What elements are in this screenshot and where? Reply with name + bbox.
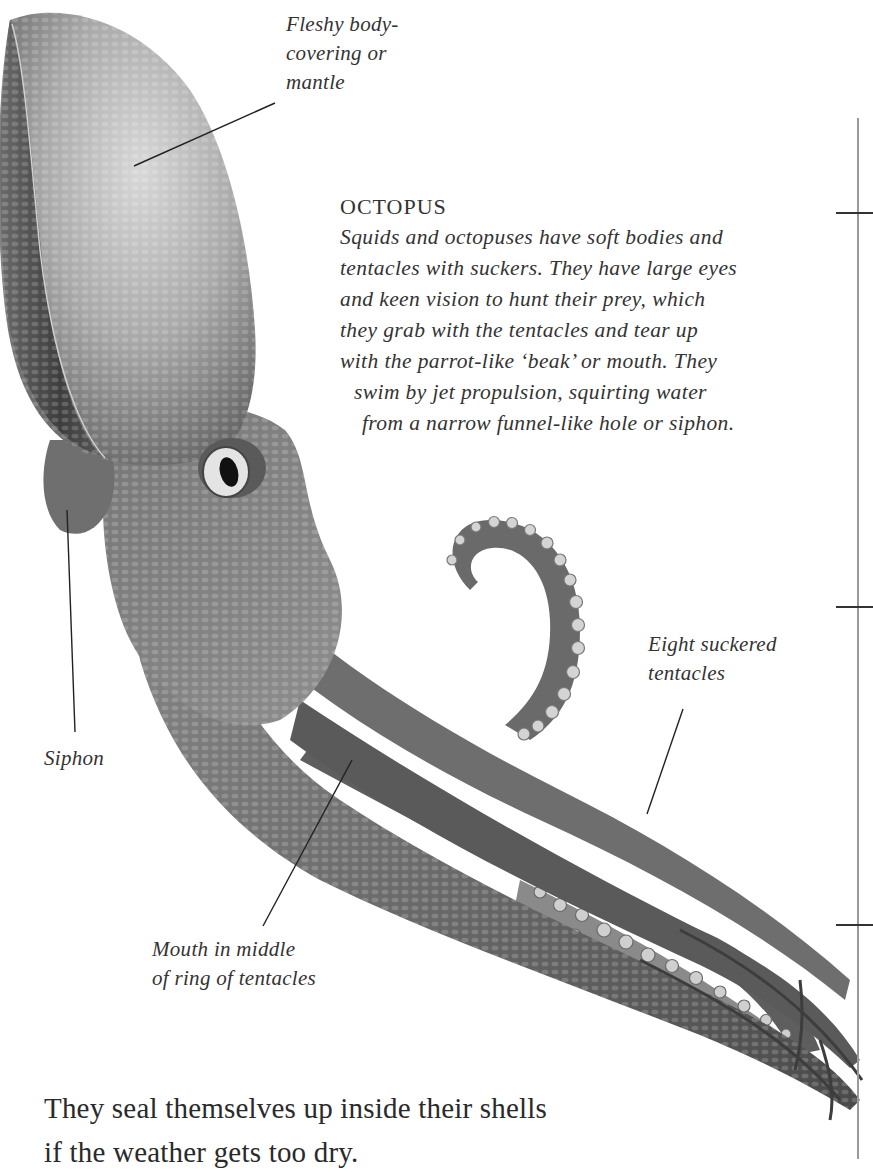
- label-mantle: Fleshy body- covering or mantle: [286, 10, 399, 97]
- body-line: They seal themselves up inside their she…: [44, 1086, 547, 1130]
- label-line: Eight suckered: [648, 630, 777, 659]
- label-line: covering or: [286, 39, 399, 68]
- label-eight-tentacles: Eight suckered tentacles: [648, 630, 777, 688]
- body-text: They seal themselves up inside their she…: [44, 1086, 547, 1172]
- caption-body: Squids and octopuses have soft bodies an…: [340, 222, 850, 439]
- caption-line: they grab with the tentacles and tear up: [340, 315, 850, 346]
- label-line: of ring of tentacles: [152, 964, 316, 993]
- label-line: mantle: [286, 68, 399, 97]
- label-line: Fleshy body-: [286, 10, 399, 39]
- caption-line: swim by jet propulsion, squirting water: [340, 377, 850, 408]
- caption-line: with the parrot-like ‘beak’ or mouth. Th…: [340, 346, 850, 377]
- margin-rule: [857, 118, 859, 1159]
- label-mouth: Mouth in middle of ring of tentacles: [152, 935, 316, 993]
- eye-icon: [198, 438, 266, 498]
- label-siphon: Siphon: [44, 744, 104, 773]
- caption-title: OCTOPUS: [340, 192, 850, 222]
- body-line: if the weather gets too dry.: [44, 1130, 547, 1172]
- caption-line: and keen vision to hunt their prey, whic…: [340, 284, 850, 315]
- caption-line: tentacles with suckers. They have large …: [340, 253, 850, 284]
- margin-tick: [836, 606, 873, 608]
- caption-block: OCTOPUS Squids and octopuses have soft b…: [340, 192, 850, 439]
- caption-line: from a narrow funnel-like hole or siphon…: [340, 408, 850, 439]
- label-line: Siphon: [44, 744, 104, 773]
- margin-tick: [836, 924, 873, 926]
- caption-line: Squids and octopuses have soft bodies an…: [340, 222, 850, 253]
- label-line: Mouth in middle: [152, 935, 316, 964]
- label-line: tentacles: [648, 659, 777, 688]
